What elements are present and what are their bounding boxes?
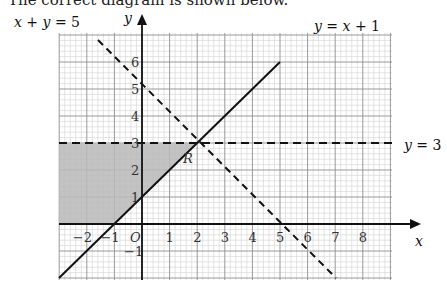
y-tick-label: 5 [131,82,139,97]
x-tick-label: 7 [331,230,339,245]
y-tick-label: −1 [124,244,143,259]
label-y-eq-3: y = 3 [403,137,441,153]
y-axis-label: y [123,10,133,26]
y-tick-label: 2 [131,163,139,178]
x-tick-label: 4 [248,230,256,245]
graph: x + y = 5 y = x + 1 y = 3 y x R O −2−112… [0,0,447,289]
y-tick-label: 6 [131,55,139,70]
region-label: R [182,151,193,166]
label-x-plus-y-eq-5: x + y = 5 [14,14,80,30]
x-tick-label: −1 [100,230,119,245]
y-axis-arrow-icon [137,14,147,25]
x-axis-label: x [415,233,423,249]
origin-label: O [130,230,141,245]
y-tick-label: 1 [131,190,139,205]
x-tick-labels: −2−112345678 [73,230,367,245]
label-y-eq-x-plus-1: y = x + 1 [313,18,380,34]
x-axis-arrow-icon [410,219,421,229]
x-tick-label: 5 [276,230,284,245]
x-tick-label: 6 [304,230,312,245]
x-tick-label: 8 [359,230,367,245]
x-tick-label: −2 [73,230,92,245]
y-tick-label: 3 [131,136,139,151]
x-tick-label: 1 [166,230,174,245]
y-tick-label: 4 [131,109,139,124]
x-tick-label: 3 [221,230,229,245]
x-tick-label: 2 [193,230,201,245]
